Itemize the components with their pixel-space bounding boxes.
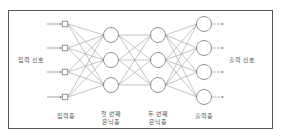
- connections: [68, 24, 197, 97]
- hidden1-node: [104, 78, 119, 93]
- input-signal-label: 입력 신호: [18, 56, 44, 64]
- diagram-border: [9, 11, 273, 129]
- hidden2-layer-label: 두 번째 은닉층: [144, 110, 172, 126]
- output-node: [197, 17, 212, 32]
- hidden2-node: [151, 53, 166, 68]
- connection-arrow: [68, 85, 104, 97]
- connection-arrow: [166, 60, 198, 72]
- neural-network-diagram: [0, 0, 281, 137]
- input-node: [62, 21, 68, 27]
- hidden2-node: [151, 28, 166, 43]
- connection-arrow: [68, 35, 104, 97]
- input-node: [62, 94, 68, 100]
- connection-arrow: [166, 35, 198, 48]
- output-node: [197, 41, 212, 56]
- hidden1-node: [104, 53, 119, 68]
- output-node: [197, 90, 212, 105]
- input-layer-label: 입력층: [54, 112, 78, 120]
- connection-arrow: [68, 48, 104, 60]
- connection-arrow: [68, 35, 104, 48]
- hidden1-node: [104, 28, 119, 43]
- hidden2-node: [151, 78, 166, 93]
- output-node: [197, 65, 212, 80]
- output-layer-label: 출력층: [192, 112, 216, 120]
- input-node: [62, 69, 68, 75]
- output-signal-label: 출력 신호: [229, 56, 255, 64]
- hidden1-layer-label: 첫 번째 은닉층: [97, 110, 125, 126]
- connection-arrow: [166, 72, 198, 85]
- input-node: [62, 45, 68, 51]
- connection-arrow: [166, 85, 198, 97]
